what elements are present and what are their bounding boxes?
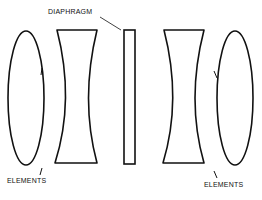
elements-left-tick	[40, 168, 42, 175]
elements-left-label: ELEMENTS	[7, 177, 46, 184]
diaphragm-label: DIAPHRAGM	[48, 8, 92, 15]
elements-right-label: ELEMENTS	[204, 181, 243, 188]
elements-right-tick	[214, 171, 217, 178]
element-leader-ticks	[0, 0, 262, 200]
lens-diagram: DIAPHRAGM ELEMENTS ELEMENTS	[0, 0, 262, 200]
